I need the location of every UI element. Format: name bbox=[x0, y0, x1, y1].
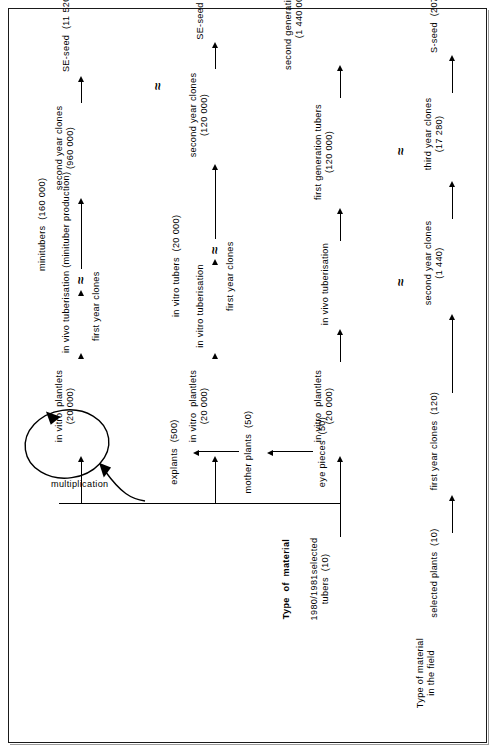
figure-page: Type of material in the field selected p… bbox=[0, 0, 497, 753]
arrow-line bbox=[273, 451, 313, 452]
trunk-line bbox=[340, 503, 341, 537]
node-stock-explants: explants (500) bbox=[169, 411, 180, 493]
node-minituber-se-seed: SE-seed (11 520 000) bbox=[61, 0, 72, 75]
node-stock-selected-tubers: 1980/1981selected tubers (10) bbox=[309, 529, 330, 629]
heading-field-material: Type of material in the field bbox=[415, 623, 436, 723]
arrow-line bbox=[340, 213, 341, 241]
approx-equal-invitro: ≈ bbox=[208, 247, 221, 254]
heading-lab-material: Type of material bbox=[281, 525, 292, 633]
arrowhead-right-icon bbox=[78, 353, 84, 359]
arrow-line bbox=[452, 500, 453, 533]
arrowhead-right-icon bbox=[212, 164, 218, 170]
arrowhead-right-icon bbox=[337, 65, 343, 71]
node-invitro-first-year-clones: first year clones bbox=[225, 215, 236, 311]
arrowhead-right-icon bbox=[449, 314, 455, 320]
multiplication-loop-icon bbox=[19, 373, 149, 523]
node-invivo-second-generation-tubers: second generation tubers (1 440 000) bbox=[283, 0, 304, 78]
branch-line-invivo bbox=[340, 461, 341, 503]
approx-equal-field-invivo-2: ≈ bbox=[394, 148, 407, 155]
approx-equal-branches: ≈ bbox=[151, 83, 164, 90]
arrowhead-right-icon bbox=[212, 42, 218, 48]
node-invivo-tuberisation: in vivo tuberisation bbox=[320, 237, 331, 331]
arrowhead-right-icon bbox=[78, 198, 84, 204]
node-invivo-plantlets: in vitro plantlets (20 000) bbox=[313, 358, 334, 454]
approx-equal-field-invivo-1: ≈ bbox=[394, 279, 407, 286]
node-invitro-tubers: in vitro tubers (20 000) bbox=[171, 197, 182, 317]
node-field-first-year-clones: first year clones (120) bbox=[429, 389, 440, 493]
arrow-line bbox=[340, 70, 341, 98]
node-stock-mother-plants: mother plants (50) bbox=[243, 409, 254, 495]
branch-line-minituber bbox=[81, 461, 82, 503]
arrowhead-right-icon bbox=[337, 329, 343, 335]
arrowhead-right-icon bbox=[78, 290, 84, 296]
node-minituber-second-year-clones: second year clones (960 000) bbox=[54, 98, 75, 198]
node-invitro-second-year-clones: second year clones (120 000) bbox=[188, 64, 209, 166]
node-minituber-plantlets: in vitro plantlets (20 000) bbox=[54, 358, 75, 454]
branch-line-invitro bbox=[215, 461, 216, 503]
node-minitubers: minitubers (160 000) bbox=[37, 151, 48, 271]
approx-equal-minituber: ≈ bbox=[74, 277, 87, 284]
node-field-s-seed: S-seed (207 360) bbox=[429, 7, 440, 53]
node-invivo-first-generation-tubers: first generation tubers (120 000) bbox=[313, 95, 334, 209]
arrow-line bbox=[215, 169, 216, 239]
node-invitro-plantlets: in vitro plantlets (20 000) bbox=[188, 358, 209, 454]
node-invitro-tuberisation: in vitro tuberisation bbox=[195, 259, 206, 353]
arrowhead-right-icon bbox=[337, 456, 343, 462]
arrowhead-right-icon bbox=[212, 353, 218, 359]
node-invitro-se-seed: SE-seed (1 440 000) bbox=[195, 0, 206, 41]
arrowhead-right-icon bbox=[449, 181, 455, 187]
arrowhead-right-icon bbox=[78, 76, 84, 82]
arrowhead-up-icon bbox=[267, 450, 273, 456]
arrowhead-right-icon bbox=[449, 55, 455, 61]
arrow-line bbox=[81, 203, 82, 269]
arrow-line bbox=[452, 319, 453, 393]
arrow-line bbox=[340, 334, 341, 362]
arrowhead-right-icon bbox=[212, 259, 218, 265]
arrow-line bbox=[81, 81, 82, 103]
arrowhead-right-icon bbox=[449, 495, 455, 501]
arrow-line bbox=[452, 60, 453, 93]
arrowhead-right-icon bbox=[78, 456, 84, 462]
node-field-second-year-clones: second year clones (1 440) bbox=[423, 214, 444, 312]
arrowhead-right-icon bbox=[212, 456, 218, 462]
label-multiplication: multiplication bbox=[51, 479, 121, 490]
arrow-line bbox=[452, 186, 453, 219]
node-minituber-first-year-clones: first year clones bbox=[91, 245, 102, 341]
node-field-third-year-clones: third year clones (17 280) bbox=[423, 88, 444, 180]
arrowhead-right-icon bbox=[337, 208, 343, 214]
arrow-line bbox=[215, 47, 216, 69]
node-field-selected-plants: selected plants (10) bbox=[429, 527, 440, 619]
diagram-canvas: Type of material in the field selected p… bbox=[11, 6, 490, 741]
